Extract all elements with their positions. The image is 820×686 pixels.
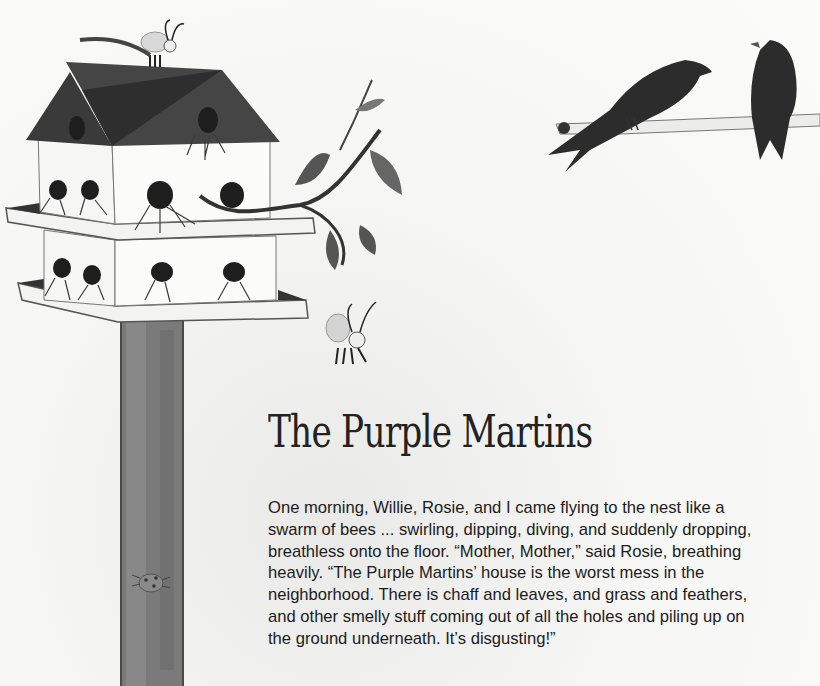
story-line: breathless onto the floor. “Mother, Moth… (268, 541, 820, 563)
story-line: One morning, Willie, Rosie, and I came f… (268, 497, 820, 519)
birds-on-branch (548, 40, 820, 172)
story-line: and other smelly stuff coming out of all… (268, 606, 820, 628)
martin-bird-right (750, 40, 797, 160)
story-title: The Purple Martins (268, 406, 592, 457)
storybook-page: The Purple Martins One morning, Willie, … (0, 0, 820, 686)
martin-bird-left (548, 60, 712, 172)
story-line: the ground underneath. It’s disgusting!” (268, 628, 820, 650)
birdhouse-pole (121, 320, 183, 686)
bee-character-icon (326, 302, 376, 364)
story-line: neighborhood. There is chaff and leaves,… (268, 584, 820, 606)
story-paragraph: One morning, Willie, Rosie, and I came f… (268, 497, 820, 650)
birdhouse (6, 62, 402, 322)
story-line: swarm of bees ... swirling, dipping, div… (268, 519, 820, 541)
story-line: heavily. “The Purple Martins’ house is t… (268, 562, 820, 584)
bee-on-roof-icon (80, 20, 184, 67)
